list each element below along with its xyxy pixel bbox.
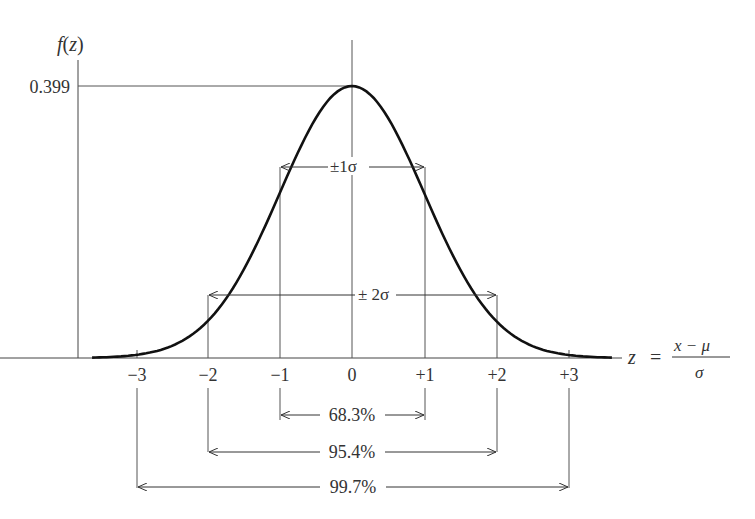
pm1-sigma-label: ±1σ [330, 157, 357, 176]
normal-distribution-chart: ±1σ ± 2σ f(z) 0.399 −3 −2 −1 0 +1 +2 +3 … [0, 0, 755, 519]
x-tick-label: −2 [198, 365, 217, 385]
pm2-sigma-label: ± 2σ [358, 285, 389, 304]
x-tick-label: +3 [559, 365, 578, 385]
pct99-label: 99.7% [330, 477, 377, 497]
x-axis-label-eq: = [650, 346, 661, 368]
x-tick-label: −1 [270, 365, 289, 385]
y-axis-label: f(z) [57, 33, 84, 56]
x-tick-label: +2 [487, 365, 506, 385]
pct68-label: 68.3% [329, 405, 376, 425]
x-axis-label-denominator: σ [695, 363, 704, 382]
pct95-label: 95.4% [329, 442, 376, 462]
y-tick-label-peak: 0.399 [30, 77, 71, 97]
x-axis-label-numerator: x − μ [673, 336, 710, 355]
x-tick-label: −3 [127, 365, 146, 385]
x-axis-label-z: z [627, 346, 636, 368]
x-tick-label: 0 [348, 365, 357, 385]
x-tick-label: +1 [415, 365, 434, 385]
